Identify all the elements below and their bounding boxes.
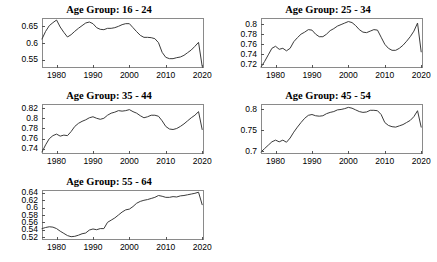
xtick-label: 1990 — [296, 71, 328, 80]
xtick-mark — [129, 151, 130, 154]
xtick-label: 2020 — [405, 71, 437, 80]
xtick-mark — [348, 65, 349, 68]
xtick-mark — [202, 151, 203, 154]
xtick-label: 1980 — [260, 71, 292, 80]
ytick-label: 0.62 — [0, 196, 38, 205]
xtick-mark — [276, 65, 277, 68]
xtick-label: 2010 — [369, 71, 401, 80]
panel-title-age-16-24: Age Group: 16 - 24 — [0, 4, 218, 15]
xtick-mark — [93, 237, 94, 240]
ytick-label: 0.8 — [219, 105, 257, 114]
xtick-mark — [57, 151, 58, 154]
xtick-label: 1990 — [77, 243, 109, 252]
ytick-mark — [42, 128, 45, 129]
ytick-label: 0.6 — [0, 39, 38, 48]
xtick-label: 1990 — [77, 71, 109, 80]
ytick-mark — [261, 130, 264, 131]
xtick-label: 1980 — [260, 157, 292, 166]
ytick-mark — [261, 34, 264, 35]
ytick-label: 0.7 — [219, 147, 257, 156]
xtick-mark — [385, 65, 386, 68]
xtick-label: 2020 — [186, 157, 218, 166]
ytick-mark — [42, 230, 45, 231]
ytick-mark — [42, 193, 45, 194]
panel-title-age-35-44: Age Group: 35 - 44 — [0, 90, 218, 101]
xtick-label: 2010 — [150, 71, 182, 80]
xtick-mark — [348, 151, 349, 154]
panel-age-55-64: Age Group: 55 - 64 0.520.540.560.580.60.… — [0, 176, 218, 262]
ytick-mark — [42, 60, 45, 61]
xtick-mark — [129, 65, 130, 68]
ytick-label: 0.74 — [219, 50, 257, 59]
plot-area-age-35-44: 0.740.760.780.80.8219801990200020102020 — [0, 104, 218, 164]
xtick-label: 2010 — [369, 157, 401, 166]
panel-title-age-45-54: Age Group: 45 - 54 — [219, 90, 437, 101]
xtick-mark — [166, 65, 167, 68]
ytick-mark — [261, 151, 264, 152]
ytick-label: 0.82 — [0, 104, 38, 113]
ytick-label: 0.64 — [0, 188, 38, 197]
ytick-mark — [261, 109, 264, 110]
xtick-mark — [421, 151, 422, 154]
xtick-label: 2010 — [150, 157, 182, 166]
ytick-label: 0.76 — [219, 40, 257, 49]
xtick-mark — [93, 65, 94, 68]
xtick-label: 2000 — [332, 71, 364, 80]
xtick-label: 2000 — [332, 157, 364, 166]
ytick-mark — [261, 64, 264, 65]
xtick-mark — [385, 151, 386, 154]
xtick-mark — [57, 65, 58, 68]
plot-area-age-16-24: 0.550.60.6519801990200020102020 — [0, 18, 218, 78]
ytick-mark — [261, 24, 264, 25]
plot-area-age-55-64: 0.520.540.560.580.60.620.641980199020002… — [0, 190, 218, 250]
panel-title-age-55-64: Age Group: 55 - 64 — [0, 176, 218, 187]
xtick-label: 1980 — [41, 243, 73, 252]
xtick-label: 1990 — [77, 157, 109, 166]
xtick-label: 2020 — [405, 157, 437, 166]
xtick-label: 1980 — [41, 157, 73, 166]
xtick-label: 2000 — [113, 71, 145, 80]
xtick-label: 1980 — [41, 71, 73, 80]
panel-age-35-44: Age Group: 35 - 44 0.740.760.780.80.8219… — [0, 90, 218, 175]
ytick-label: 0.74 — [0, 144, 38, 153]
panel-title-age-25-34: Age Group: 25 - 34 — [219, 4, 437, 15]
ytick-mark — [42, 149, 45, 150]
xtick-mark — [276, 151, 277, 154]
xtick-label: 2000 — [113, 157, 145, 166]
ytick-label: 0.65 — [0, 22, 38, 31]
ytick-label: 0.78 — [219, 30, 257, 39]
xtick-mark — [421, 65, 422, 68]
panel-age-25-34: Age Group: 25 - 34 0.720.740.760.780.819… — [219, 4, 437, 89]
ytick-mark — [42, 237, 45, 238]
ytick-label: 0.78 — [0, 124, 38, 133]
ytick-mark — [42, 43, 45, 44]
xtick-mark — [166, 151, 167, 154]
ytick-mark — [261, 54, 264, 55]
ytick-label: 0.8 — [0, 114, 38, 123]
ytick-mark — [42, 118, 45, 119]
ytick-mark — [42, 26, 45, 27]
xtick-mark — [202, 237, 203, 240]
panel-age-45-54: Age Group: 45 - 54 0.70.750.819801990200… — [219, 90, 437, 175]
ytick-mark — [42, 139, 45, 140]
xtick-label: 2020 — [186, 243, 218, 252]
ytick-mark — [42, 208, 45, 209]
ytick-label: 0.55 — [0, 55, 38, 64]
ytick-mark — [42, 215, 45, 216]
ytick-label: 0.75 — [219, 126, 257, 135]
xtick-label: 2000 — [113, 243, 145, 252]
xtick-label: 2020 — [186, 71, 218, 80]
plot-area-age-45-54: 0.70.750.819801990200020102020 — [219, 104, 437, 164]
ytick-mark — [42, 222, 45, 223]
xtick-mark — [202, 65, 203, 68]
xtick-mark — [129, 237, 130, 240]
xtick-mark — [312, 151, 313, 154]
ytick-mark — [42, 108, 45, 109]
ytick-label: 0.8 — [219, 20, 257, 29]
xtick-mark — [166, 237, 167, 240]
xtick-label: 2010 — [150, 243, 182, 252]
ytick-mark — [42, 200, 45, 201]
xtick-label: 1990 — [296, 157, 328, 166]
xtick-mark — [57, 237, 58, 240]
panel-age-16-24: Age Group: 16 - 24 0.550.60.651980199020… — [0, 4, 218, 89]
